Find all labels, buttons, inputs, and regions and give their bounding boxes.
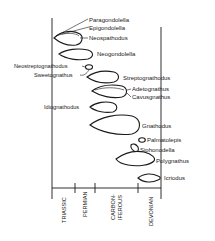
label-icriodus: Icriodus xyxy=(164,175,185,181)
range-shape-palmatolepis xyxy=(139,138,146,142)
label-polygnathus: Polygnathus xyxy=(156,158,189,164)
label-epigondolella: Epigondolella xyxy=(89,25,126,31)
range-shape-polygnathus xyxy=(116,151,155,165)
leader-sweetognathus xyxy=(80,70,89,75)
label-sweetognathus: Sweetognathus xyxy=(34,72,73,78)
label-gnathodus: Gnathodus xyxy=(142,123,171,129)
period-carboniferous-line2: IFEROUS xyxy=(117,195,123,220)
range-shape-streptognathodus xyxy=(87,71,119,83)
range-shape-idiognathodus xyxy=(90,102,117,112)
period-permian: PERMIAN xyxy=(82,192,88,218)
period-carboniferous-line1: CARBON- xyxy=(110,194,116,220)
label-neogondolella: Neogondolella xyxy=(97,51,136,57)
range-shape-neogondolella xyxy=(59,49,93,60)
label-streptognathodus: Streptognathodus xyxy=(123,75,170,81)
period-devonian: DEVONIAN xyxy=(148,197,154,226)
range-shape-cavusgnathus xyxy=(92,85,127,98)
label-adetognathus: Adetognathus xyxy=(132,86,169,92)
label-cavusgnathus: Cavusgnathus xyxy=(132,94,170,100)
range-paragondolella-group: Paragondolella Epigondolella Neospathodu… xyxy=(54,17,130,45)
label-neospathodus: Neospathodus xyxy=(89,35,128,41)
range-shape-gnathodus xyxy=(90,115,140,135)
range-shape-icriodus xyxy=(138,174,160,182)
label-idiognathodus: Idiognathodus xyxy=(44,104,79,110)
range-shape-neostreptognathodus xyxy=(86,65,93,70)
label-neostreptognathodus: Neostreptognathodus xyxy=(14,63,68,69)
label-paragondolella: Paragondolella xyxy=(89,17,130,23)
label-palmatolepis: Palmatolepis xyxy=(147,137,181,143)
range-chart: Paragondolella Epigondolella Neospathodu… xyxy=(0,0,215,241)
period-triassic: TRIASSIC xyxy=(61,197,67,223)
